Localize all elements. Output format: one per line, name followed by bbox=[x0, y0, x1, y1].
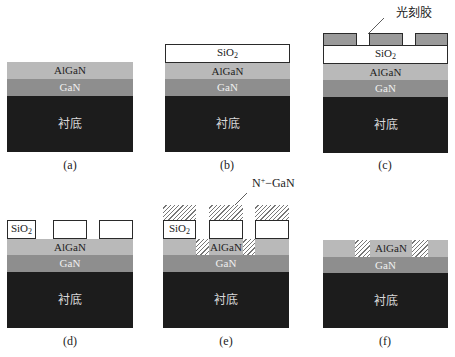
n-gan-recess-hatch bbox=[196, 239, 209, 255]
n-gan-contact-hatch bbox=[412, 240, 428, 257]
algan-layer: AlGaN bbox=[165, 63, 290, 79]
gan-layer: GaN bbox=[7, 79, 133, 96]
photoresist-leader-line bbox=[368, 18, 384, 34]
sio2-block bbox=[53, 220, 87, 239]
substrate-label: 衬底 bbox=[216, 118, 240, 130]
sio2-layer: SiO2 bbox=[165, 44, 290, 63]
sio2-block bbox=[99, 220, 133, 239]
algan-layer: AlGaN bbox=[7, 239, 133, 255]
sio2-block: SiO2 bbox=[7, 220, 36, 239]
sio2-layer: SiO2 bbox=[323, 45, 448, 64]
caption-c: (c) bbox=[365, 158, 405, 173]
gan-label: GaN bbox=[375, 260, 396, 271]
algan-layer: AlGaN bbox=[163, 239, 289, 255]
gan-layer: GaN bbox=[323, 257, 448, 273]
substrate-label: 衬底 bbox=[214, 294, 238, 306]
gan-layer: GaN bbox=[165, 79, 290, 96]
substrate-layer: 衬底 bbox=[323, 273, 448, 328]
algan-label: AlGaN bbox=[370, 67, 402, 78]
n-gan-regrowth-hatch bbox=[209, 205, 243, 220]
caption-f: (f) bbox=[365, 334, 405, 349]
gan-label: GaN bbox=[60, 82, 81, 93]
n-gan-regrowth-hatch bbox=[163, 205, 196, 220]
caption-d: (d) bbox=[50, 334, 90, 349]
substrate-layer: 衬底 bbox=[163, 272, 289, 328]
gan-label: GaN bbox=[375, 83, 396, 94]
substrate-layer: 衬底 bbox=[165, 96, 290, 152]
photoresist-annotation: 光刻胶 bbox=[396, 3, 432, 21]
sio2-block bbox=[209, 220, 243, 239]
sio2-label: SiO2 bbox=[375, 48, 396, 61]
substrate-layer: 衬底 bbox=[323, 97, 448, 153]
substrate-label: 衬底 bbox=[374, 295, 398, 307]
sio2-block bbox=[255, 220, 289, 239]
sio2-label: SiO2 bbox=[217, 47, 238, 60]
substrate-label: 衬底 bbox=[58, 294, 82, 306]
algan-label: AlGaN bbox=[54, 242, 86, 253]
algan-label: AlGaN bbox=[210, 242, 242, 253]
algan-label-box: AlGaN bbox=[370, 240, 412, 257]
sio2-block: SiO2 bbox=[163, 220, 196, 239]
n-gan-regrowth-hatch bbox=[255, 205, 289, 220]
caption-b: (b) bbox=[207, 158, 247, 173]
gan-layer: GaN bbox=[163, 255, 289, 272]
substrate-label: 衬底 bbox=[374, 119, 398, 131]
n-gan-contact-hatch bbox=[355, 240, 370, 257]
caption-e: (e) bbox=[206, 334, 246, 349]
sio2-label: SiO2 bbox=[11, 223, 32, 236]
n-gan-recess-hatch bbox=[243, 239, 255, 255]
algan-label: AlGaN bbox=[375, 243, 407, 254]
algan-label: AlGaN bbox=[212, 66, 244, 77]
gan-layer: GaN bbox=[7, 255, 133, 272]
algan-layer: AlGaN bbox=[7, 62, 133, 79]
caption-a: (a) bbox=[50, 158, 90, 173]
gan-label: GaN bbox=[216, 258, 237, 269]
gan-label: GaN bbox=[217, 82, 238, 93]
algan-layer: AlGaN bbox=[323, 64, 448, 80]
sio2-label: SiO2 bbox=[169, 223, 190, 236]
algan-label: AlGaN bbox=[54, 65, 86, 76]
substrate-layer: 衬底 bbox=[7, 96, 133, 152]
gan-layer: GaN bbox=[323, 80, 448, 97]
gan-label: GaN bbox=[60, 258, 81, 269]
n-gan-annotation: N+−GaN bbox=[252, 176, 295, 191]
substrate-layer: 衬底 bbox=[7, 272, 133, 328]
substrate-label: 衬底 bbox=[58, 118, 82, 130]
